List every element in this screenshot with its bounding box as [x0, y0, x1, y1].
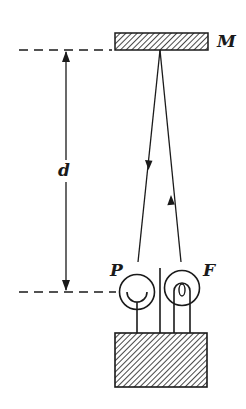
arrowhead-up-icon — [62, 51, 70, 62]
ray-arrow-up-icon — [167, 195, 175, 205]
mirror-label: M — [216, 31, 237, 51]
filament-lamp — [165, 271, 200, 334]
base-block — [115, 333, 207, 387]
mirror — [115, 33, 208, 50]
photocell-label: P — [109, 260, 124, 280]
photocell — [120, 275, 155, 334]
emitted-ray-from-lamp — [160, 50, 181, 262]
distance-label: d — [58, 160, 70, 180]
arrowhead-down-icon — [62, 280, 70, 291]
diagram-canvas: d M P F — [0, 0, 246, 409]
incident-ray-to-photocell — [138, 50, 160, 262]
lamp-label: F — [202, 260, 217, 280]
ray-arrow-down-icon — [145, 160, 153, 170]
